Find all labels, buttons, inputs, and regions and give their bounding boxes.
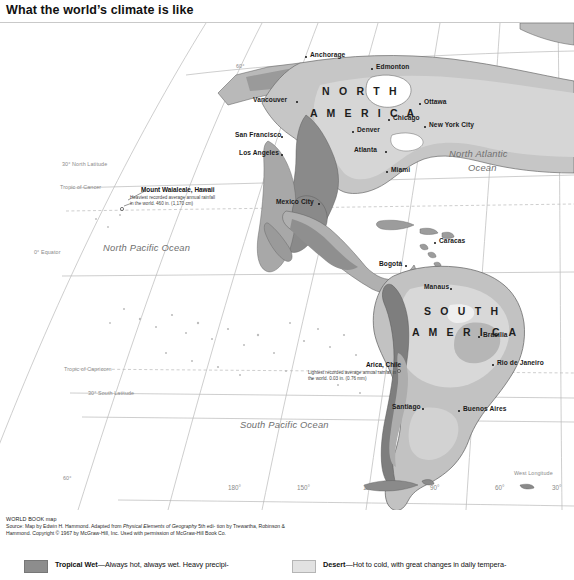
source-credit-block: WORLD BOOK map Source: Map by Edwin H. H… [6,516,306,537]
legend-term-desert: Desert [323,560,345,569]
source-detail: Source: Map by Edwin H. Hammond. Adapted… [6,523,306,537]
landmass-caribbean-islands [376,220,454,267]
landmass-pacific-fragments [364,480,534,492]
legend-item-tropical-wet[interactable]: Tropical Wet—Always hot, always wet. Hea… [24,560,282,573]
legend-text-tropical-wet: Tropical Wet—Always hot, always wet. Hea… [55,560,229,569]
water-hudson-bay [366,75,411,107]
source-line-b: 5th edi- [197,523,215,529]
source-line-d: permission of McGraw-Hill Book Co. [144,530,226,536]
source-credit-line: WORLD BOOK map [6,516,306,522]
callout-leaders [124,191,145,206]
legend-desc-desert: Hot to cold, with great changes in daily… [353,560,507,569]
legend-swatch-desert [292,560,316,573]
legend-text-desert: Desert—Hot to cold, with great changes i… [323,560,506,569]
map-graphic [0,23,574,510]
water-great-lakes [391,133,423,151]
legend-desc-tropical-wet: Always hot, always wet. Heavy precipi- [105,560,229,569]
legend-item-desert[interactable]: Desert—Hot to cold, with great changes i… [292,560,560,573]
legend-swatch-tropical-wet [24,560,48,573]
map-page: What the world’s climate is like [0,0,574,580]
legend-term-tropical-wet: Tropical Wet [55,560,98,569]
source-work-title: Physical Elements of Geography [123,523,197,529]
landmass-greenland [520,23,574,45]
map-canvas: 60° 30° North Latitude Tropic of Cancer … [0,23,574,510]
map-legend: Tropical Wet—Always hot, always wet. Hea… [0,556,574,580]
legend-dash-tropical-wet: — [98,560,105,569]
legend-dash-desert: — [345,560,352,569]
source-line-a: Source: Map by Edwin H. Hammond. Adapted… [6,523,123,529]
page-title: What the world’s climate is like [6,3,194,17]
